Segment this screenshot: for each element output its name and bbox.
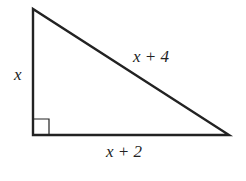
triangle (33, 9, 229, 135)
vertical-leg-label: x (14, 66, 22, 83)
right-angle-marker (33, 119, 49, 135)
horizontal-leg-label: x + 2 (106, 143, 142, 160)
hypotenuse-label: x + 4 (133, 48, 169, 65)
